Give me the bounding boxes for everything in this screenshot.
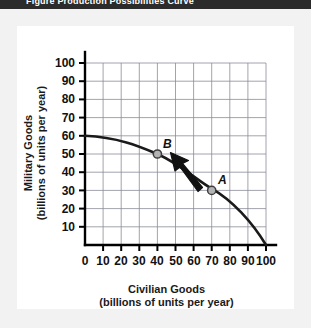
x-axis-title-line1: Civilian Goods <box>64 283 269 296</box>
data-point-B <box>153 150 161 158</box>
data-point-A <box>208 186 216 194</box>
x-axis-title: Civilian Goods (billions of units per ye… <box>64 283 269 309</box>
y-tick-label: 50 <box>45 148 75 160</box>
y-tick-label: 70 <box>45 112 75 124</box>
y-tick-label: 80 <box>45 93 75 105</box>
y-tick-label: 100 <box>45 57 75 69</box>
data-point-label-A: A <box>218 174 227 186</box>
y-tick-label: 90 <box>45 75 75 87</box>
x-tick-label: 100 <box>254 255 278 267</box>
y-tick-label: 40 <box>45 166 75 178</box>
data-point-label-B: B <box>163 138 172 150</box>
y-tick-label: 10 <box>45 221 75 233</box>
y-tick-label: 30 <box>45 185 75 197</box>
y-axis-title: Military Goods (billions of units per ye… <box>22 63 48 243</box>
y-tick-label: 60 <box>45 130 75 142</box>
x-axis-title-line2: (billions of units per year) <box>64 296 269 309</box>
y-axis-title-line1: Military Goods <box>22 63 35 243</box>
y-axis-title-line2: (billions of units per year) <box>35 63 48 243</box>
y-tick-label: 20 <box>45 203 75 215</box>
